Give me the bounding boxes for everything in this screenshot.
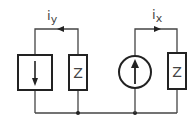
current-arrow-iy [57, 26, 64, 32]
right-top-wire [135, 29, 177, 56]
current-arrow-ix [154, 26, 161, 32]
junction-dot-left [76, 111, 80, 115]
left-top-wire [35, 29, 78, 55]
circuit-diagram: Z iy Z ix [0, 0, 195, 123]
impedance-left-label: Z [73, 65, 83, 81]
current-label-iy: iy [47, 8, 58, 26]
impedance-right-label: Z [172, 64, 182, 80]
current-label-ix: ix [152, 7, 163, 25]
